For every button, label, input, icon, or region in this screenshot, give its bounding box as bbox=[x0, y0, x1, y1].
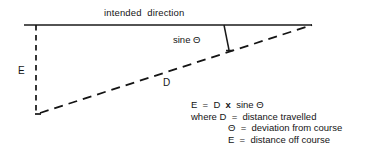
sine-theta-drop-line bbox=[224, 25, 229, 50]
formula-e-row: E = distance off course bbox=[191, 134, 342, 146]
formula-equation-row: E = D x sine Θ bbox=[191, 99, 342, 111]
opposite-side-label-e: E bbox=[18, 66, 25, 76]
intended-direction-label: intended direction bbox=[104, 8, 185, 18]
sine-theta-label: sine Θ bbox=[173, 35, 200, 45]
formula-equation-tail: sine Θ bbox=[231, 99, 264, 110]
formula-legend: E = D x sine Θ where D = distance travel… bbox=[191, 99, 342, 145]
formula-equation-head: E = D bbox=[191, 99, 226, 110]
hypotenuse-label-d: D bbox=[163, 78, 170, 88]
navigation-deviation-diagram: intended direction sine Θ E D E = D x si… bbox=[0, 0, 379, 163]
formula-theta-row: Θ = deviation from course bbox=[191, 122, 342, 134]
formula-where-d-row: where D = distance travelled bbox=[191, 111, 342, 123]
